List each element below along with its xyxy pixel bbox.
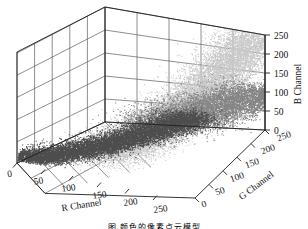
x-tick-label: 50 — [33, 175, 44, 186]
y-tick-label: 100 — [229, 170, 246, 184]
scatter-plot-3d-canvas: 0 50 100 150 200 250 0 50 100 150 200 25… — [0, 0, 308, 229]
x-tick-label: 0 — [6, 169, 13, 180]
y-tick-label: 50 — [214, 185, 227, 198]
y-tick-label: 0 — [200, 199, 208, 210]
z-tick-label: 0 — [274, 126, 279, 136]
z-axis-tick-labels: 0 50 100 150 200 250 — [274, 31, 289, 136]
z-tick-label: 100 — [274, 88, 289, 98]
x-tick-label: 200 — [123, 196, 139, 208]
figure-caption: 图 颜色的像素点云模型 — [0, 221, 308, 229]
z-axis-title: B Channel — [293, 63, 303, 104]
figure-3d-scatter: 0 50 100 150 200 250 0 50 100 150 200 25… — [0, 0, 308, 229]
y-tick-label: 200 — [260, 142, 277, 156]
y-tick-label: 150 — [244, 156, 261, 170]
z-tick-label: 200 — [274, 50, 289, 60]
x-axis-title: R Channel — [61, 197, 103, 213]
z-tick-label: 250 — [274, 31, 289, 41]
x-tick-label: 250 — [153, 203, 169, 215]
z-tick-label: 150 — [274, 69, 289, 79]
z-tick-label: 50 — [274, 107, 284, 117]
x-tick-label: 100 — [61, 182, 77, 194]
